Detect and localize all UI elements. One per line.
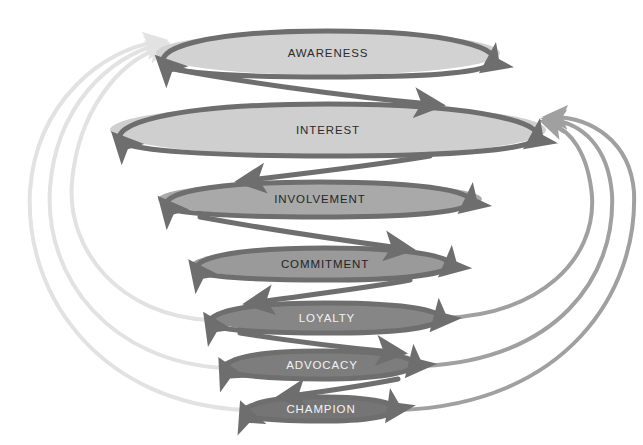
spiral-funnel-diagram: AWARENESS INTEREST INVOLVEMENT COMMITMEN…	[0, 0, 643, 445]
spiral-cross-advocacy-to-champion	[290, 379, 398, 396]
spiral-cross-commitment-to-loyalty	[258, 280, 410, 302]
stage-label-advocacy: ADVOCACY	[286, 359, 358, 371]
spiral-cross-interest-to-involvement	[250, 156, 430, 180]
stage-label-awareness: AWARENESS	[288, 47, 369, 59]
spiral-cross-involvement-to-commitment	[200, 217, 400, 248]
stage-label-interest: INTEREST	[296, 124, 360, 136]
left-feedback-arcs	[30, 42, 246, 410]
stage-label-champion: CHAMPION	[286, 403, 355, 415]
left-arc-loyalty-to-awareness	[72, 48, 210, 320]
stage-label-involvement: INVOLVEMENT	[274, 193, 365, 205]
left-arc-champion-to-awareness	[30, 42, 246, 410]
stage-label-loyalty: LOYALTY	[299, 312, 355, 324]
diagram-canvas: AWARENESS INTEREST INVOLVEMENT COMMITMEN…	[0, 0, 643, 445]
stage-label-commitment: COMMITMENT	[281, 258, 369, 270]
